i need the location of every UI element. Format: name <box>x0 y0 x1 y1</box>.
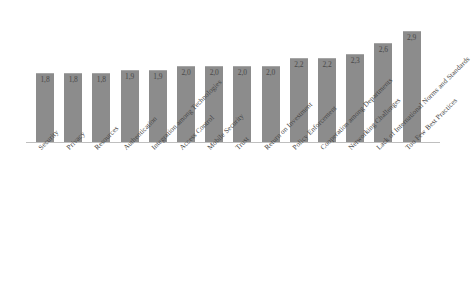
bar-value-label: 2,2 <box>290 60 308 69</box>
category-axis-labels: SecurityPrivacyResourcesAuthenticationIn… <box>0 143 447 308</box>
bar-value-label: 2,6 <box>374 45 392 54</box>
bar-value-label: 2,0 <box>233 68 251 77</box>
bar-value-label: 1,9 <box>149 72 167 81</box>
bar-value-label: 1,9 <box>121 72 139 81</box>
bar-1: 1,8 <box>36 1 54 143</box>
bar-4: 1,9 <box>121 1 139 143</box>
bar-value-label: 2,2 <box>318 60 336 69</box>
bar-value-label: 2,0 <box>262 68 280 77</box>
bar-value-label: 2,3 <box>346 56 364 65</box>
bar-2: 1,8 <box>64 1 82 143</box>
bar-value-label: 1,8 <box>64 75 82 84</box>
bar-3: 1,8 <box>92 1 110 143</box>
bar-value-label: 2,9 <box>403 33 421 42</box>
bar-value-label: 1,8 <box>36 75 54 84</box>
bar-value-label: 2,0 <box>177 68 195 77</box>
bar-value-label: 2,0 <box>205 68 223 77</box>
bar-value-label: 1,8 <box>92 75 110 84</box>
bar-9: 2,0 <box>262 1 280 143</box>
bar-rect <box>233 66 251 143</box>
